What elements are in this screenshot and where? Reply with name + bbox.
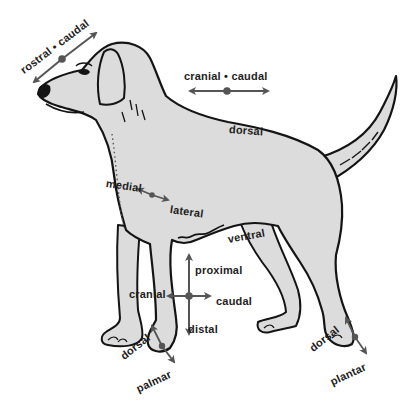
label-cranial-caudal: cranial • caudal: [184, 71, 267, 82]
cranial-caudal-arrow: [190, 87, 268, 95]
anatomical-directions-diagram: rostral • caudal cranial • caudal dorsal…: [0, 0, 415, 408]
far-front-leg: [102, 225, 143, 346]
dog-body: [38, 43, 354, 352]
label-proximal: proximal: [195, 265, 242, 276]
label-distal: distal: [188, 324, 218, 335]
dog-illustration: [0, 0, 415, 408]
label-caudal-leg: caudal: [216, 296, 252, 307]
label-cranial-leg: cranial: [129, 289, 166, 300]
label-dorsal-back: dorsal: [229, 124, 264, 137]
